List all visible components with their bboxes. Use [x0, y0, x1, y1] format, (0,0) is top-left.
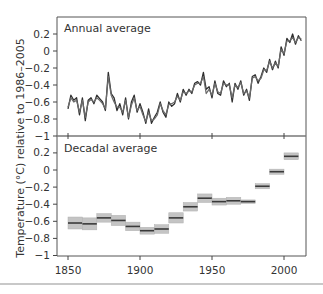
- temperature-figure: 0.20−0.2−0.4−0.6−0.8−1 0.20−0.2−0.4−0.6−…: [0, 0, 323, 294]
- y-tick-label: 0.2: [33, 146, 50, 158]
- x-tick-label: 2000: [271, 264, 298, 276]
- annual-y-axis: 0.20−0.2−0.4−0.6−0.8−1: [25, 28, 58, 142]
- decadal-panel-title: Decadal average: [64, 142, 158, 155]
- y-tick-label: −0.4: [25, 79, 51, 91]
- y-tick-label: 0.2: [33, 28, 50, 40]
- annual-panel-title: Annual average: [64, 22, 151, 35]
- y-tick-label: −0.2: [25, 62, 51, 74]
- y-tick-label: −0.6: [25, 96, 51, 108]
- y-tick-label: −0.6: [25, 215, 51, 227]
- y-tick-label: −0.2: [25, 181, 51, 193]
- y-tick-label: 0: [43, 164, 50, 176]
- annual-line: [68, 37, 301, 121]
- x-tick-label: 1950: [199, 264, 226, 276]
- y-axis-title: Temperature (°C) relative to 1986–2005: [14, 38, 27, 258]
- y-tick-label: −0.8: [25, 113, 51, 125]
- annual-series: [68, 34, 301, 123]
- y-tick-label: −1: [35, 130, 50, 142]
- x-tick-label: 1850: [55, 264, 82, 276]
- y-tick-label: 0: [43, 45, 50, 57]
- y-tick-label: −1: [35, 249, 50, 261]
- y-tick-label: −0.4: [25, 198, 51, 210]
- decadal-y-axis: 0.20−0.2−0.4−0.6−0.8−1: [25, 146, 58, 261]
- y-tick-label: −0.8: [25, 232, 51, 244]
- x-axis: 1850190019502000: [55, 256, 298, 276]
- decadal-series: [68, 153, 298, 234]
- bottom-rule: [0, 283, 323, 285]
- annual-line: [68, 34, 301, 123]
- x-tick-label: 1900: [127, 264, 154, 276]
